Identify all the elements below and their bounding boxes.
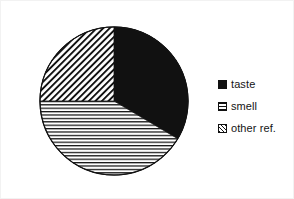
chart-legend: taste smell other ref. (218, 75, 292, 141)
horizontal-hatch-swatch-icon (218, 102, 227, 111)
legend-label-other-ref: other ref. (231, 122, 276, 134)
pie-slice-other-ref[interactable] (40, 27, 114, 101)
solid-black-swatch-icon (218, 80, 227, 89)
legend-label-taste: taste (231, 78, 255, 90)
legend-item-smell[interactable]: smell (218, 97, 292, 115)
pie-chart-canvas (39, 26, 189, 176)
pie-chart (39, 26, 189, 176)
legend-label-smell: smell (231, 100, 257, 112)
legend-item-other-ref[interactable]: other ref. (218, 119, 292, 137)
figure-frame: taste smell other ref. (0, 0, 294, 199)
legend-item-taste[interactable]: taste (218, 75, 292, 93)
diagonal-hatch-swatch-icon (218, 124, 227, 133)
